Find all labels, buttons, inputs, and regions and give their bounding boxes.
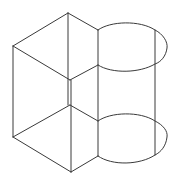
- prism-bottom-front-right-edge: [71, 156, 98, 172]
- prism-bottom-front-left-edge: [13, 137, 71, 172]
- half-cylinder: [98, 23, 167, 163]
- prism-top-right-edge: [68, 13, 98, 30]
- prism-bottom-back-right-edge: [70, 105, 98, 121]
- prism-top-left-edge: [13, 13, 68, 46]
- diagram-canvas: [0, 0, 177, 188]
- wireframe-drawing: [0, 0, 177, 188]
- prism-top-front-left-edge: [13, 46, 70, 80]
- prism: [13, 13, 98, 172]
- cylinder-bottom-ellipse: [98, 114, 167, 163]
- cylinder-top-ellipse: [98, 23, 167, 71]
- prism-top-front-right-edge: [70, 65, 98, 80]
- prism-bottom-back-left-edge: [13, 105, 70, 137]
